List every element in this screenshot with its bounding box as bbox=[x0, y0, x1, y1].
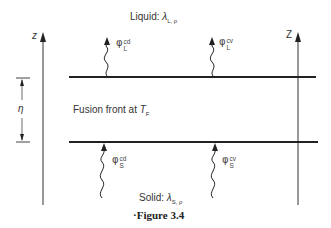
fusion-temperature-subscript: F bbox=[146, 111, 150, 117]
eta-arrowhead-up bbox=[20, 79, 24, 86]
solid-label: Solid: λS, ρ bbox=[139, 193, 182, 205]
flux-arrow-solid-convection bbox=[211, 148, 215, 198]
flux-label-solid-convection: φcvS bbox=[222, 155, 236, 169]
flux-label-liquid-conduction: φcdL bbox=[116, 38, 130, 52]
flux-subscript: S bbox=[120, 162, 124, 169]
flux-superscript: cv bbox=[230, 155, 237, 162]
liquid-label-text: Liquid: bbox=[130, 11, 162, 22]
liquid-lambda-subscript: L, ρ bbox=[167, 18, 177, 24]
flux-superscript: cv bbox=[227, 37, 234, 44]
fusion-front-text: Fusion front at bbox=[73, 104, 140, 115]
phi-symbol: φ bbox=[112, 154, 119, 165]
flux-superscript: cd bbox=[120, 155, 127, 162]
phi-symbol: φ bbox=[219, 36, 226, 47]
flux-subscript: L bbox=[227, 44, 231, 51]
phi-symbol: φ bbox=[116, 37, 123, 48]
flux-arrow-solid-conduction bbox=[100, 148, 104, 198]
flux-arrow-liquid-conduction bbox=[104, 42, 108, 77]
eta-arrowhead-down bbox=[20, 134, 24, 141]
flux-arrowhead-solid-convection bbox=[212, 143, 218, 151]
flux-subscript: S bbox=[230, 162, 234, 169]
flux-arrowhead-solid-conduction bbox=[101, 143, 107, 151]
flux-arrowhead-liquid-conduction bbox=[104, 37, 110, 45]
flux-label-liquid-convection: φcvL bbox=[219, 37, 233, 51]
right-axis-label: Z bbox=[286, 30, 292, 40]
flux-superscript: cd bbox=[124, 38, 131, 45]
flux-label-solid-conduction: φcdS bbox=[112, 155, 126, 169]
flux-arrowhead-liquid-convection bbox=[209, 37, 215, 45]
solid-lambda-subscript: S, ρ bbox=[172, 199, 183, 205]
left-axis-label: z bbox=[32, 31, 37, 41]
left-z-axis-arrowhead bbox=[40, 32, 46, 42]
right-z-axis-arrowhead bbox=[295, 32, 301, 42]
solid-label-text: Solid: bbox=[139, 192, 167, 203]
phi-symbol: φ bbox=[222, 154, 229, 165]
flux-subscript: L bbox=[124, 45, 128, 52]
gap-label-eta: η bbox=[18, 104, 24, 114]
liquid-label: Liquid: λL, ρ bbox=[130, 12, 177, 24]
figure-caption: ·Figure 3.4 bbox=[133, 209, 184, 221]
flux-arrow-liquid-convection bbox=[210, 42, 214, 77]
fusion-front-label: Fusion front at TF bbox=[73, 105, 149, 117]
